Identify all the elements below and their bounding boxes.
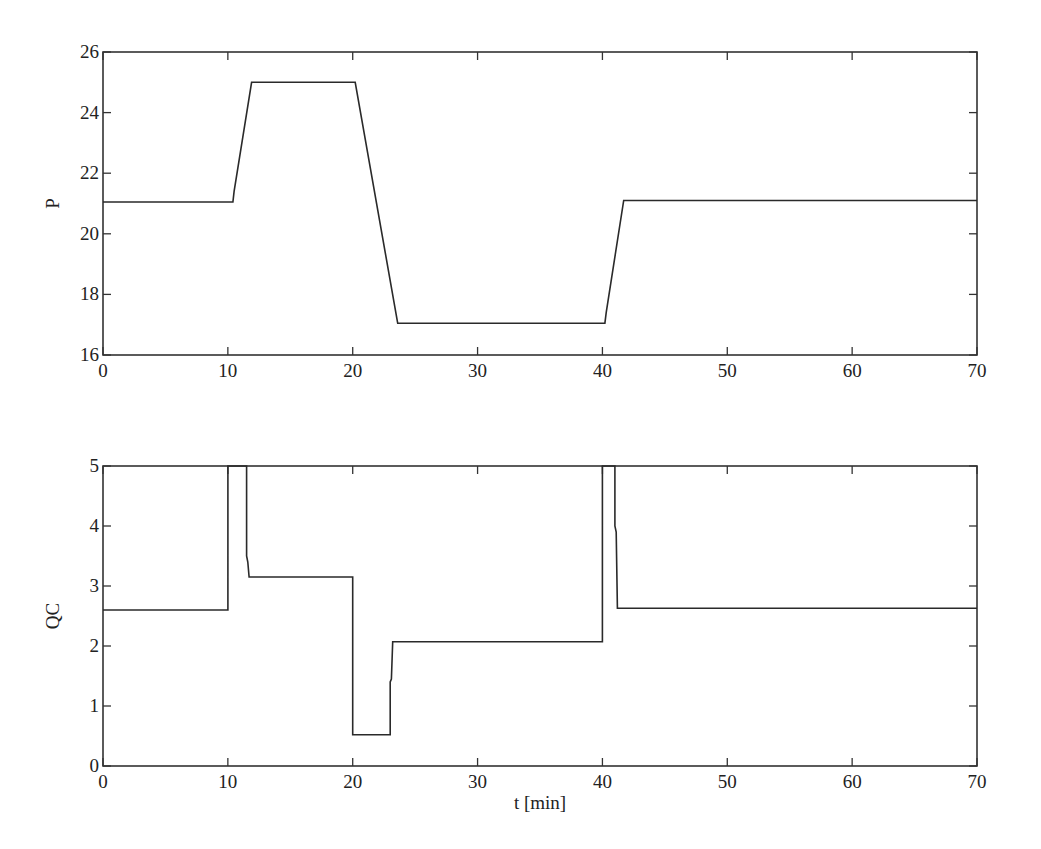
y-tick-label: 2 [90, 635, 100, 656]
x-tick-label: 70 [968, 360, 987, 381]
series-line-qc [103, 466, 977, 735]
x-tick-label: 50 [718, 360, 737, 381]
x-tick-label: 20 [343, 360, 362, 381]
y-tick-label: 18 [80, 283, 99, 304]
x-tick-label: 10 [218, 360, 237, 381]
y-axis-label: P [42, 198, 63, 209]
y-tick-label: 24 [80, 102, 100, 123]
y-tick-label: 22 [80, 162, 99, 183]
y-tick-label: 3 [90, 575, 100, 596]
x-tick-label: 30 [468, 360, 487, 381]
series-line-p [103, 82, 977, 323]
y-tick-label: 5 [90, 455, 100, 476]
x-tick-label: 70 [968, 771, 987, 792]
axes-frame [103, 52, 977, 355]
x-tick-label: 40 [593, 771, 612, 792]
x-tick-label: 40 [593, 360, 612, 381]
y-tick-label: 4 [90, 515, 100, 536]
x-tick-label: 60 [843, 360, 862, 381]
y-tick-label: 16 [80, 344, 99, 365]
plot-p: 010203040506070161820222426P [42, 41, 987, 381]
axes-frame [103, 466, 977, 766]
y-tick-label: 20 [80, 223, 99, 244]
x-tick-label: 10 [218, 771, 237, 792]
y-tick-label: 0 [90, 755, 100, 776]
x-tick-label: 60 [843, 771, 862, 792]
x-axis-label: t [min] [514, 792, 566, 813]
x-tick-label: 0 [98, 360, 108, 381]
y-axis-label: QC [42, 603, 63, 629]
plot-qc: 010203040506070012345QCt [min] [42, 455, 987, 813]
x-tick-label: 30 [468, 771, 487, 792]
x-tick-label: 0 [98, 771, 108, 792]
figure: 010203040506070161820222426P 01020304050… [0, 0, 1041, 849]
x-tick-label: 50 [718, 771, 737, 792]
y-tick-label: 1 [90, 695, 100, 716]
x-tick-label: 20 [343, 771, 362, 792]
y-tick-label: 26 [80, 41, 99, 62]
